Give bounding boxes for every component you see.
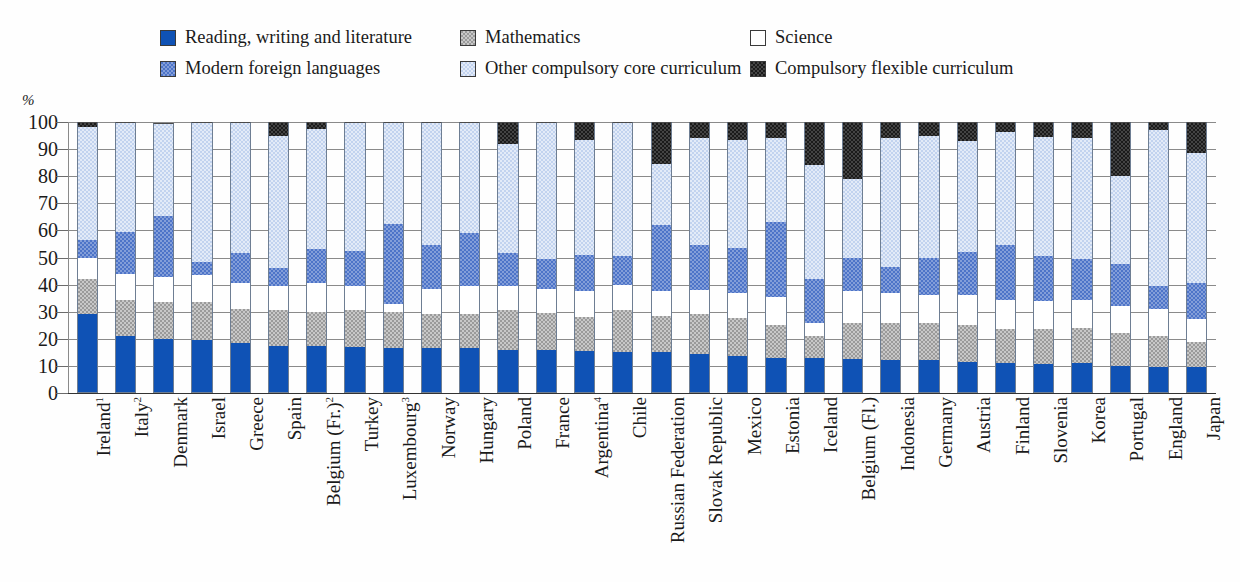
y-tick-mark [56,366,68,367]
bar-segment-reading [77,314,98,393]
bar-segment-math [995,329,1016,363]
bar-segment-mfl [383,224,404,304]
bar-segment-reading [689,354,710,393]
bar-denmark [153,122,174,393]
bar-germany [918,122,939,393]
bar-segment-mfl [230,253,251,283]
legend-swatch-other-core-icon [460,61,476,77]
x-axis-line [68,393,1216,395]
bar-segment-reading [153,339,174,393]
bar-segment-other [77,127,98,239]
bar-segment-reading [612,352,633,393]
bar-segment-mfl [459,233,480,286]
bar-segment-science [421,289,442,315]
bar-segment-math [880,323,901,361]
bar-segment-reading [344,347,365,393]
y-tick-mark [56,230,68,231]
bar-segment-mfl [344,251,365,286]
bar-segment-mfl [880,267,901,293]
bar-segment-other [1110,176,1131,264]
bar-segment-flex [1148,122,1169,130]
bar-segment-other [497,144,518,254]
bar-segment-reading [804,358,825,393]
bar-segment-mfl [115,232,136,274]
bar-finland [995,122,1016,393]
bar-korea [1071,122,1092,393]
bar-belgium-fl [842,122,863,393]
bar-segment-math [191,302,212,340]
bar-segment-science [995,300,1016,330]
bar-turkey [344,122,365,393]
y-tick-mark [56,149,68,150]
bar-segment-reading [383,348,404,393]
x-label-iceland: Iceland [821,397,840,453]
bar-segment-reading [1148,367,1169,393]
bar-segment-reading [115,336,136,393]
bar-segment-other [268,136,289,269]
bars-container [68,122,1216,393]
legend-item-other-core: Other compulsory core curriculum [460,59,750,78]
bar-chile [612,122,633,393]
bar-segment-math [230,309,251,343]
bar-iceland [804,122,825,393]
y-tick-label: 70 [12,193,58,213]
bar-belgium-fr [306,122,327,393]
bar-segment-flex [880,122,901,138]
x-label-belgium-fl: Belgium (Fl.) [859,397,878,500]
y-axis-tick-marks [56,122,68,393]
y-tick-label: 60 [12,220,58,240]
bar-segment-flex [306,122,327,129]
bar-slovenia [1033,122,1054,393]
x-label-france: France [553,397,572,449]
y-tick-mark [56,258,68,259]
bar-segment-flex [918,122,939,136]
bar-segment-mfl [1110,264,1131,306]
bar-segment-reading [1110,366,1131,393]
bar-segment-other [727,140,748,248]
bar-segment-flex [651,122,672,164]
bar-italy [115,122,136,393]
y-tick-label: 40 [12,275,58,295]
bar-segment-science [230,283,251,309]
legend-item-mathematics: Mathematics [460,28,750,47]
x-label-footnote-marker: 1 [93,397,105,403]
legend-item-science: Science [750,28,1080,47]
bar-segment-reading [765,358,786,393]
x-label-russian-federation: Russian Federation [668,397,687,543]
bar-segment-flex [765,122,786,138]
bar-segment-math [765,325,786,358]
plot-area [68,122,1216,393]
y-tick-mark [56,393,68,394]
chart-legend: Reading, writing and literature Mathemat… [160,22,1160,84]
bar-segment-math [918,323,939,361]
bar-segment-mfl [918,258,939,296]
bar-segment-other [574,140,595,255]
x-axis-category-labels: Ireland1Italy2DenmarkIsraelGreeceSpainBe… [68,397,1216,557]
bar-segment-science [765,297,786,325]
legend-swatch-modern-foreign-languages-icon [160,61,176,77]
bar-segment-other [459,122,480,233]
legend-item-modern-foreign-languages: Modern foreign languages [160,59,460,78]
x-label-ireland: Ireland1 [94,397,113,456]
legend-swatch-reading-icon [160,30,176,46]
bar-segment-math [574,317,595,351]
bar-spain [268,122,289,393]
x-label-footnote-marker: 3 [399,397,411,403]
y-tick-label: 100 [12,112,58,132]
x-label-slovak-republic: Slovak Republic [706,397,725,523]
bar-segment-math [306,312,327,346]
bar-segment-mfl [1186,283,1207,318]
bar-segment-mfl [1071,259,1092,300]
x-label-turkey: Turkey [362,397,381,451]
bar-segment-other [804,165,825,279]
bar-segment-math [497,310,518,349]
bar-segment-math [1186,342,1207,368]
y-tick-mark [56,122,68,123]
bar-segment-flex [804,122,825,165]
y-axis-tick-labels: 1009080706050403020100 [10,122,58,393]
x-label-slovenia: Slovenia [1051,397,1070,464]
x-label-luxembourg: Luxembourg3 [400,397,419,500]
bar-hungary [459,122,480,393]
bar-segment-flex [1186,122,1207,153]
legend-label-science: Science [775,28,833,47]
